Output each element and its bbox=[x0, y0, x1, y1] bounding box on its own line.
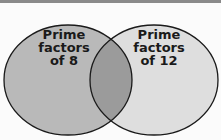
right-label-line3: of 12 bbox=[140, 53, 177, 68]
venn-svg: Prime factors of 8 Prime factors of 12 bbox=[0, 0, 221, 140]
left-label-line3: of 8 bbox=[50, 53, 78, 68]
venn-diagram: Prime factors of 8 Prime factors of 12 bbox=[0, 0, 221, 140]
